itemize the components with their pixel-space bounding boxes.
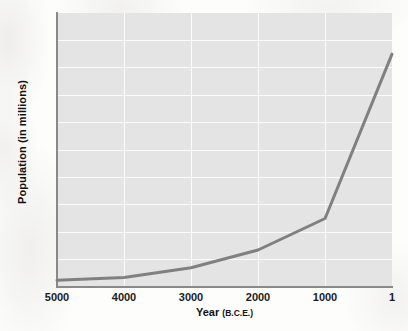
gridline-horizontal-40 (57, 232, 392, 233)
gridline-horizontal-180 (57, 40, 392, 41)
x-tick-label-1: 1 (389, 291, 395, 303)
y-axis-title: Population (in millions) (16, 57, 28, 227)
x-axis-title-main: Year (196, 306, 219, 318)
x-tick-label-5000: 5000 (45, 291, 69, 303)
population-chart-figure: 200 180 160 140 120 100 80 60 40 20 5000… (0, 0, 408, 331)
gridline-horizontal-60 (57, 204, 392, 205)
x-tick-label-1000: 1000 (313, 291, 337, 303)
x-axis-title-era: (B.C.E.) (222, 308, 253, 318)
gridline-horizontal-160 (57, 67, 392, 68)
x-tick-label-2000: 2000 (246, 291, 270, 303)
gridline-vertical-1000 (325, 13, 326, 287)
gridline-horizontal-80 (57, 177, 392, 178)
gridline-horizontal-120 (57, 122, 392, 123)
gridline-horizontal-100 (57, 150, 392, 151)
gridline-vertical-2000 (258, 13, 259, 287)
x-tick-label-4000: 4000 (112, 291, 136, 303)
x-axis-line (56, 286, 393, 288)
y-axis-line (56, 12, 58, 288)
x-axis-title: Year (B.C.E.) (57, 306, 392, 318)
gridline-vertical-3000 (191, 13, 192, 287)
gridline-horizontal-140 (57, 95, 392, 96)
x-tick-label-3000: 3000 (179, 291, 203, 303)
gridline-vertical-4000 (124, 13, 125, 287)
gridline-horizontal-20 (57, 259, 392, 260)
